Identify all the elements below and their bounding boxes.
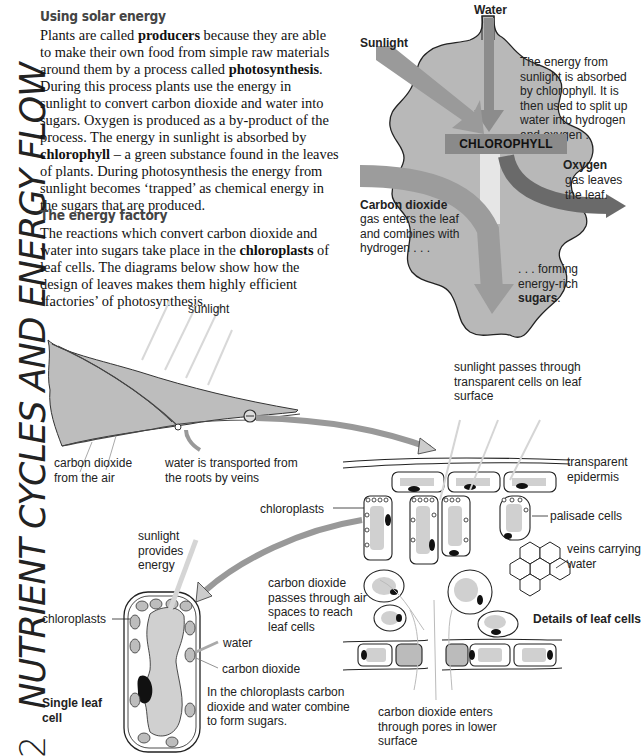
label-chloroplasts-cell: chloroplasts bbox=[42, 612, 106, 627]
label-carbon-dioxide-cell: carbon dioxide bbox=[222, 662, 300, 677]
leaf-cells-detail bbox=[333, 458, 570, 670]
label-chloroplasts-detail: chloroplasts bbox=[260, 502, 324, 517]
label-sugars: sugars bbox=[518, 291, 557, 305]
label-veins-carrying-water: veins carrying water bbox=[567, 542, 644, 571]
label-co2-pores: carbon dioxide enters through pores in l… bbox=[378, 705, 508, 749]
label-sunlight: Sunlight bbox=[360, 36, 408, 51]
label-sunlight-passes: sunlight passes through transparent cell… bbox=[454, 360, 604, 404]
note-chloroplasts-combine: In the chloroplasts carbon dioxide and w… bbox=[207, 685, 357, 729]
label-water-cell: water bbox=[223, 636, 252, 651]
label-water-transport: water is transported from the roots by v… bbox=[165, 456, 315, 485]
title-single-leaf-cell: Single leaf cell bbox=[42, 696, 112, 725]
label-transparent-epidermis: transparent epidermis bbox=[567, 455, 644, 484]
note-carbon-dioxide: gas enters the leaf and combines with hy… bbox=[360, 212, 470, 256]
note-energy-absorbed: The energy from sunlight is absorbed by … bbox=[520, 55, 640, 142]
label-water: Water bbox=[474, 3, 507, 18]
label-palisade-cells: palisade cells bbox=[550, 509, 622, 524]
leaf-side-view bbox=[48, 300, 436, 472]
label-oxygen: Oxygen bbox=[563, 158, 607, 173]
note-oxygen: gas leaves the leaf. bbox=[565, 173, 635, 202]
label-co2-air-spaces: carbon dioxide passes through air spaces… bbox=[268, 576, 368, 634]
chlorophyll-box: CHLOROPHYLL bbox=[445, 134, 567, 154]
label-sunlight-leaf: sunlight bbox=[188, 302, 229, 317]
title-details-of-leaf-cells: Details of leaf cells bbox=[533, 612, 641, 627]
note-forming-sugars: . . . forming energy-rich sugars. bbox=[518, 262, 598, 306]
label-sunlight-provides: sunlight provides energy bbox=[138, 529, 218, 573]
label-co2-from-air: carbon dioxide from the air bbox=[54, 456, 154, 485]
label-carbon-dioxide: Carbon dioxide bbox=[360, 198, 447, 213]
